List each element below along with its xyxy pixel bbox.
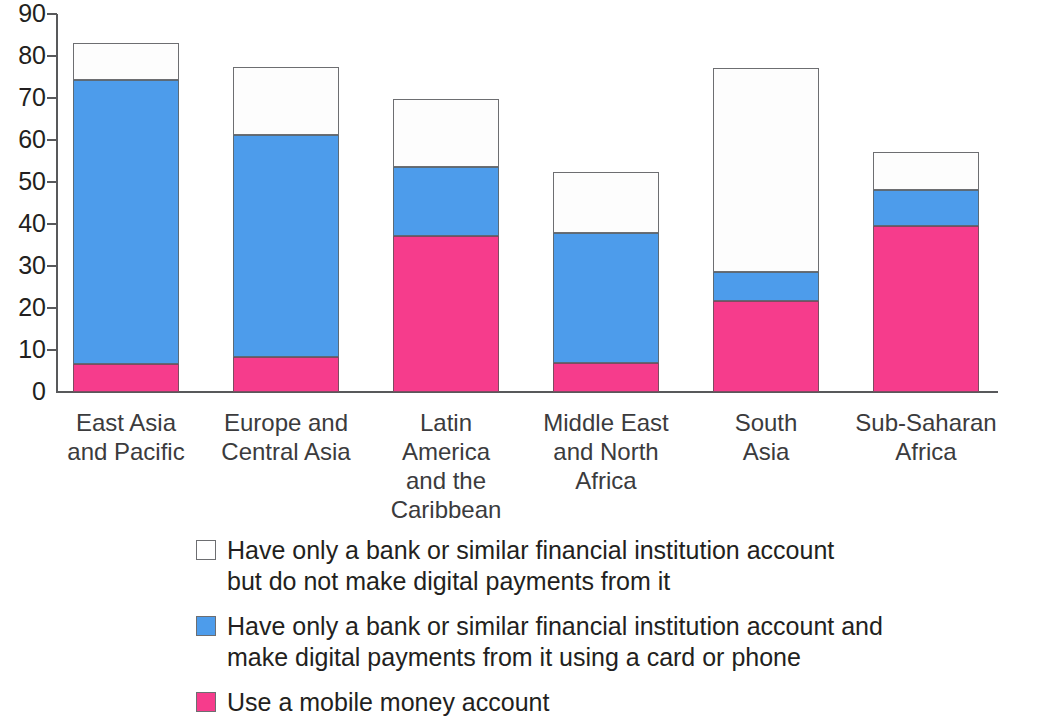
bar-segment xyxy=(233,67,339,135)
bar-segment xyxy=(393,236,499,392)
bar-segment xyxy=(233,357,339,392)
legend-item[interactable]: Have only a bank or similar financial in… xyxy=(196,611,956,673)
x-category-label: East Asiaand Pacific xyxy=(36,408,216,466)
bar-group xyxy=(713,68,819,392)
bar-group xyxy=(553,172,659,392)
y-tick-mark-20 xyxy=(47,307,57,309)
bar-segment xyxy=(233,135,339,357)
bar-segment xyxy=(73,364,179,392)
x-category-label: SouthAsia xyxy=(676,408,856,466)
y-tick-mark-50 xyxy=(47,181,57,183)
bar-segment xyxy=(73,80,179,364)
bar-group xyxy=(233,67,339,392)
y-tick-mark-90 xyxy=(47,13,57,15)
bar-segment xyxy=(73,43,179,80)
y-tick-mark-70 xyxy=(47,97,57,99)
bar-segment xyxy=(553,233,659,363)
y-tick-mark-80 xyxy=(47,55,57,57)
bar-segment xyxy=(873,226,979,392)
bar-group xyxy=(393,99,499,392)
plot-area: 9080706050403020100 xyxy=(0,0,1054,400)
x-category-label: LatinAmericaand theCaribbean xyxy=(356,408,536,524)
pink-swatch-icon xyxy=(196,692,216,712)
bar-segment xyxy=(393,99,499,167)
bars-layer xyxy=(0,0,1054,400)
bar-group xyxy=(873,152,979,392)
x-category-label: Europe andCentral Asia xyxy=(196,408,376,466)
y-tick-mark-40 xyxy=(47,223,57,225)
x-category-label: Sub-SaharanAfrica xyxy=(836,408,1016,466)
y-tick-mark-60 xyxy=(47,139,57,141)
bar-segment xyxy=(713,272,819,301)
y-tick-mark-10 xyxy=(47,349,57,351)
bar-segment xyxy=(713,301,819,392)
legend-item-label: Use a mobile money account xyxy=(227,687,549,718)
legend-item-label: Have only a bank or similar financial in… xyxy=(227,611,883,673)
bar-segment xyxy=(873,190,979,226)
legend-item-label: Have only a bank or similar financial in… xyxy=(227,535,834,597)
blue-swatch-icon xyxy=(196,616,216,636)
bar-segment xyxy=(553,363,659,392)
white-swatch-icon xyxy=(196,540,216,560)
bar-segment xyxy=(553,172,659,233)
x-category-label: Middle Eastand NorthAfrica xyxy=(516,408,696,495)
legend-item[interactable]: Use a mobile money account xyxy=(196,687,956,718)
bar-group xyxy=(73,43,179,392)
legend-item[interactable]: Have only a bank or similar financial in… xyxy=(196,535,956,597)
bar-segment xyxy=(713,68,819,272)
bar-segment xyxy=(873,152,979,190)
bar-segment xyxy=(393,167,499,236)
legend: Have only a bank or similar financial in… xyxy=(196,535,956,720)
x-axis-category-labels: East Asiaand PacificEurope andCentral As… xyxy=(0,398,1054,518)
y-tick-mark-30 xyxy=(47,265,57,267)
